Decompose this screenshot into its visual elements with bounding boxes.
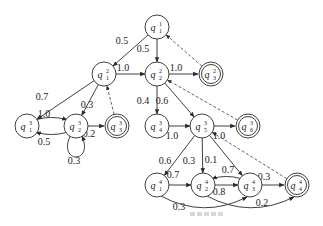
state-node-q1-2: q21 bbox=[92, 62, 116, 86]
state-label: q bbox=[151, 69, 156, 80]
svg-text:4: 4 bbox=[252, 179, 255, 185]
svg-text:4: 4 bbox=[299, 186, 302, 192]
edge-probability-label: 0.4 bbox=[137, 95, 150, 106]
edge-probability-label: 0.7 bbox=[167, 169, 180, 180]
state-label: q bbox=[151, 180, 156, 191]
state-node-q1-3: q31 bbox=[15, 114, 39, 138]
hhmm-diagram: 0.50.51.01.00.70.31.00.50.20.30.40.61.01… bbox=[0, 0, 323, 226]
state-node-q6-3: q36 bbox=[236, 114, 260, 138]
edge-probability-label: 1.0 bbox=[38, 108, 51, 119]
state-node-q2-4: q42 bbox=[191, 173, 215, 197]
state-label: q bbox=[111, 121, 116, 132]
svg-text:3: 3 bbox=[119, 127, 122, 133]
edge-probability-label: 0.5 bbox=[116, 35, 129, 46]
edge-probability-label: 0.7 bbox=[222, 164, 235, 175]
edge-probability-label: 0.1 bbox=[205, 154, 218, 165]
edge-probability-label: 0.3 bbox=[81, 99, 94, 110]
nodes-layer: q11q21q22q23q31q32q33q34q35q36q41q42q43q… bbox=[15, 15, 309, 197]
edge-probability-label: 0.3 bbox=[68, 155, 81, 166]
svg-text:2: 2 bbox=[205, 186, 208, 192]
edge-probability-label: 1.0 bbox=[170, 62, 183, 73]
caption-placeholder bbox=[190, 212, 223, 216]
svg-text:1: 1 bbox=[159, 186, 162, 192]
svg-text:4: 4 bbox=[159, 179, 162, 185]
svg-text:2: 2 bbox=[159, 75, 162, 81]
state-label: q bbox=[291, 180, 296, 191]
state-label: q bbox=[98, 69, 103, 80]
svg-text:1: 1 bbox=[159, 21, 162, 27]
state-node-q3-2: q23 bbox=[199, 62, 223, 86]
transition-edge bbox=[68, 136, 85, 157]
svg-text:3: 3 bbox=[204, 120, 207, 126]
state-node-q2-2: q22 bbox=[145, 62, 169, 86]
state-label: q bbox=[205, 69, 210, 80]
edge-probability-label: 0.2 bbox=[256, 197, 269, 208]
state-node-q3-4: q43 bbox=[238, 173, 262, 197]
state-label: q bbox=[242, 121, 247, 132]
svg-text:2: 2 bbox=[213, 68, 216, 74]
edge-probability-label: 0.5 bbox=[38, 136, 51, 147]
state-label: q bbox=[197, 180, 202, 191]
svg-text:3: 3 bbox=[250, 120, 253, 126]
state-label: q bbox=[21, 121, 26, 132]
svg-text:6: 6 bbox=[250, 127, 253, 133]
edge-probability-label: 0.3 bbox=[183, 155, 196, 166]
transition-edge bbox=[36, 132, 67, 134]
transition-edge bbox=[202, 138, 203, 173]
state-label: q bbox=[70, 121, 75, 132]
transition-edge bbox=[212, 176, 241, 178]
state-node-q4-4: q44 bbox=[285, 173, 309, 197]
svg-text:3: 3 bbox=[159, 120, 162, 126]
svg-text:5: 5 bbox=[204, 127, 207, 133]
transition-edge bbox=[165, 83, 194, 117]
edge-probability-label: 1.0 bbox=[117, 62, 130, 73]
state-node-q1-4: q41 bbox=[145, 173, 169, 197]
state-label: q bbox=[244, 180, 249, 191]
state-node-q3-3: q33 bbox=[105, 114, 129, 138]
state-node-q2-3: q32 bbox=[64, 114, 88, 138]
state-label: q bbox=[151, 22, 156, 33]
return-edge bbox=[107, 86, 114, 115]
state-label: q bbox=[196, 121, 201, 132]
edge-probability-label: 0.5 bbox=[137, 43, 150, 54]
svg-text:2: 2 bbox=[159, 68, 162, 74]
edge-probability-label: 0.6 bbox=[156, 95, 169, 106]
svg-text:3: 3 bbox=[29, 120, 32, 126]
edge-probability-label: 0.7 bbox=[36, 91, 49, 102]
state-node-q5-3: q35 bbox=[190, 114, 214, 138]
svg-text:1: 1 bbox=[159, 28, 162, 34]
edge-probability-label: 1.0 bbox=[213, 130, 226, 141]
state-node-q1-1: q11 bbox=[145, 15, 169, 39]
svg-text:3: 3 bbox=[213, 75, 216, 81]
state-label: q bbox=[151, 121, 156, 132]
svg-text:4: 4 bbox=[299, 179, 302, 185]
svg-text:2: 2 bbox=[78, 127, 81, 133]
svg-text:1: 1 bbox=[106, 75, 109, 81]
edge-probability-label: 0.6 bbox=[159, 155, 172, 166]
svg-text:3: 3 bbox=[252, 186, 255, 192]
svg-text:2: 2 bbox=[106, 68, 109, 74]
svg-text:3: 3 bbox=[78, 120, 81, 126]
svg-text:3: 3 bbox=[119, 120, 122, 126]
svg-text:4: 4 bbox=[205, 179, 208, 185]
svg-text:1: 1 bbox=[29, 127, 32, 133]
state-node-q4-3: q34 bbox=[145, 114, 169, 138]
edge-probability-label: 0.3 bbox=[173, 201, 186, 212]
svg-text:4: 4 bbox=[159, 127, 162, 133]
